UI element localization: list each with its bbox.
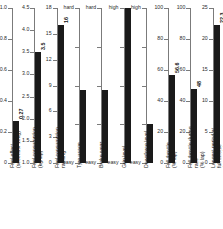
- axis-tick-label: high: [120, 5, 141, 10]
- axis-tick: [142, 47, 147, 48]
- axis-tick: [8, 101, 13, 102]
- axis-tick-label: 12: [31, 57, 52, 62]
- axis-tick-label: 20: [164, 129, 185, 134]
- axis-tick-label: 1.0: [0, 5, 7, 10]
- bar-value-label-longest-period-at-full-throttle: 22.3: [220, 13, 223, 24]
- axis-tick-label: 100: [164, 5, 185, 10]
- axis-tick-label: 40: [142, 98, 163, 103]
- axis-tick-label: 100: [142, 5, 163, 10]
- axis-tick-label: hard: [75, 5, 96, 10]
- axis-tick-label: 18: [31, 5, 52, 10]
- panel-fuel-effect: 00.20.40.60.81.00.27Fuel effect (seconds…: [0, 0, 22, 229]
- axis-tick: [97, 47, 102, 48]
- axis-tick: [142, 86, 147, 87]
- panel-brake-wear: easyhardBrake wear: [89, 0, 111, 229]
- panel-full-throttle-during-race: 02040608010048Full throttle during race …: [178, 0, 200, 229]
- axis-tick-label: 15: [187, 67, 208, 72]
- axis-tick-label: 0.6: [0, 67, 7, 72]
- axis-tick-label: high: [98, 5, 119, 10]
- axis-tick-label: easy: [120, 160, 141, 165]
- multi-panel-bar-chart: 00.20.40.60.81.00.27Fuel effect (seconds…: [0, 0, 223, 229]
- axis-tick-label: 10: [187, 98, 208, 103]
- panel-downforce-level: easyhighDownforce level: [134, 0, 156, 229]
- axis-tick-label: 20: [142, 129, 163, 134]
- axis-tick-label: easy: [75, 160, 96, 165]
- axis-tick: [97, 86, 102, 87]
- axis-tick-label: 0: [187, 160, 208, 165]
- panel-label-longest-period-at-full-throttle: Longest period at full throttle (seconds…: [211, 128, 223, 168]
- axis-tick-label: 1.0: [8, 160, 29, 165]
- axis-tick-label: 3: [31, 134, 52, 139]
- axis-tick-label: 60: [142, 67, 163, 72]
- axis-tick-label: 5: [187, 129, 208, 134]
- bar-grip-level: [125, 8, 131, 163]
- axis-tick-label: 4.0: [8, 27, 29, 32]
- axis-tick-label: 1.5: [8, 138, 29, 143]
- axis-tick-label: easy: [98, 160, 119, 165]
- axis-tick-label: 2.5: [8, 94, 29, 99]
- axis-tick-label: 9: [31, 83, 52, 88]
- axis-tick: [75, 47, 80, 48]
- axis-tick-label: 80: [142, 36, 163, 41]
- axis-tick: [8, 39, 13, 40]
- axis-tick-label: 60: [164, 67, 185, 72]
- axis-tick-label: 3.5: [8, 49, 29, 54]
- panel-tyre-usage: easyhardTyre usage: [67, 0, 89, 229]
- axis-tick-label: 40: [164, 98, 185, 103]
- axis-tick-label: 15: [31, 31, 52, 36]
- axis-tick-label: 0: [164, 160, 185, 165]
- axis-tick-label: 0: [31, 160, 52, 165]
- axis-tick-label: 2.0: [8, 116, 29, 121]
- panel-fuel-consumption-ranking: 036912151816Fuel consumption ranking: [45, 0, 67, 229]
- axis-tick-label: hard: [53, 5, 74, 10]
- axis-tick-label: 4.5: [8, 5, 29, 10]
- axis-tick-label: 0: [142, 160, 163, 165]
- panel-longest-period-at-full-throttle: 051015202522.3Longest period at full thr…: [201, 0, 223, 229]
- panel-grip-level: easyhighGrip level: [112, 0, 134, 229]
- axis-tick-label: 80: [164, 36, 185, 41]
- axis-tick-label: 6: [31, 108, 52, 113]
- axis-tick-label: 0: [0, 160, 7, 165]
- axis-tick-label: 3.0: [8, 71, 29, 76]
- axis-tick-label: easy: [53, 160, 74, 165]
- axis-tick: [75, 86, 80, 87]
- axis-tick-label: 0.4: [0, 98, 7, 103]
- panel-full-throttle: 02040608010056.6Full throttle (% lap): [156, 0, 178, 229]
- axis-tick-label: 0.2: [0, 129, 7, 134]
- axis-tick-label: 25: [187, 5, 208, 10]
- axis-tick-label: 20: [187, 36, 208, 41]
- axis-tick-label: 0.8: [0, 36, 7, 41]
- axis-tick: [209, 8, 214, 9]
